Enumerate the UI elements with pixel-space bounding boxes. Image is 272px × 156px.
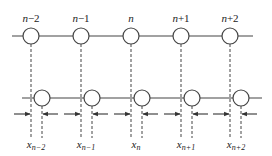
label-n-plus-2: n+2 bbox=[221, 12, 238, 24]
atom-top-n-plus-1 bbox=[173, 28, 189, 44]
bottom-dashed-guides bbox=[42, 106, 241, 138]
label-x-n: xn bbox=[131, 138, 141, 152]
atom-bottom-n-plus-1 bbox=[184, 90, 200, 106]
label-x-n-minus-1: xn−1 bbox=[76, 138, 95, 152]
atom-top-n-plus-2 bbox=[222, 28, 238, 44]
atom-bottom-n-minus-1 bbox=[84, 90, 100, 106]
label-x-n-plus-2: xn+2 bbox=[226, 138, 245, 152]
lattice-displacement-diagram: n−2 n−1 n n+1 n+2 bbox=[0, 0, 272, 156]
label-n-minus-1: n−1 bbox=[72, 12, 89, 24]
atom-bottom-n-minus-2 bbox=[34, 90, 50, 106]
atom-top-n bbox=[123, 28, 139, 44]
atom-bottom-n-plus-2 bbox=[233, 90, 249, 106]
label-x-n-minus-2: xn−2 bbox=[26, 138, 45, 152]
displaced-chain: xn−2 xn−1 xn xn+1 xn+2 bbox=[14, 90, 262, 152]
label-n-minus-2: n−2 bbox=[22, 12, 39, 24]
atom-bottom-n bbox=[134, 90, 150, 106]
top-dashed-guides bbox=[31, 44, 230, 138]
label-n-plus-1: n+1 bbox=[172, 12, 189, 24]
atom-top-n-minus-2 bbox=[23, 28, 39, 44]
atom-top-n-minus-1 bbox=[73, 28, 89, 44]
label-x-n-plus-1: xn+1 bbox=[176, 138, 195, 152]
label-n: n bbox=[128, 12, 134, 24]
equilibrium-chain: n−2 n−1 n n+1 n+2 bbox=[12, 12, 253, 138]
